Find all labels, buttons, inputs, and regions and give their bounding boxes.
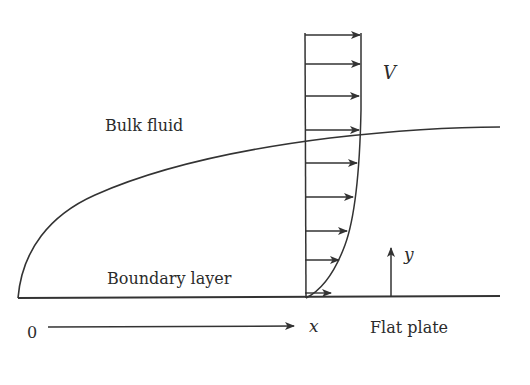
- boundary-layer-diagram: Bulk fluid Boundary layer V 0 x y Flat p…: [0, 0, 530, 385]
- velocity-label: V: [383, 62, 398, 83]
- flat-plate-label: Flat plate: [370, 318, 448, 337]
- origin-label: 0: [27, 323, 37, 342]
- velocity-profile-base-line: [305, 33, 306, 298]
- velocity-profile-envelope: [306, 33, 361, 298]
- velocity-arrows: [305, 35, 360, 293]
- boundary-layer-label: Boundary layer: [107, 269, 232, 288]
- x-axis-label: x: [309, 316, 319, 336]
- x-axis-arrow: [48, 326, 294, 327]
- bulk-fluid-label: Bulk fluid: [105, 116, 183, 135]
- boundary-layer-edge-curve: [18, 127, 500, 298]
- flat-plate-line: [18, 296, 500, 298]
- y-axis-label: y: [403, 244, 414, 264]
